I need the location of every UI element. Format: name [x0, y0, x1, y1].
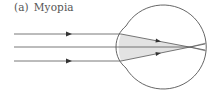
- lens-refraction-region: [119, 34, 191, 61]
- diverging-ray-bottom-tail: [190, 47, 206, 51]
- diverging-ray-top-tail: [190, 43, 206, 47]
- arrow-right-icon: [66, 59, 72, 64]
- arrow-right-icon: [66, 32, 72, 37]
- myopia-eye-diagram: [0, 0, 216, 92]
